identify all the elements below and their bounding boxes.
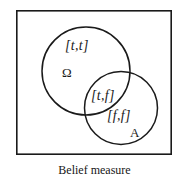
set-label-omega: Ω: [62, 66, 72, 79]
region-label-t-t: [t,t]: [65, 39, 89, 53]
figure-caption: Belief measure: [0, 163, 189, 177]
belief-measure-figure: [t,t] Ω [t,f] [f,f] A Belief measure: [0, 0, 189, 182]
region-label-f-f: [f,f]: [107, 109, 131, 123]
region-label-t-f: [t,f]: [91, 89, 115, 103]
set-label-a: A: [130, 126, 139, 139]
